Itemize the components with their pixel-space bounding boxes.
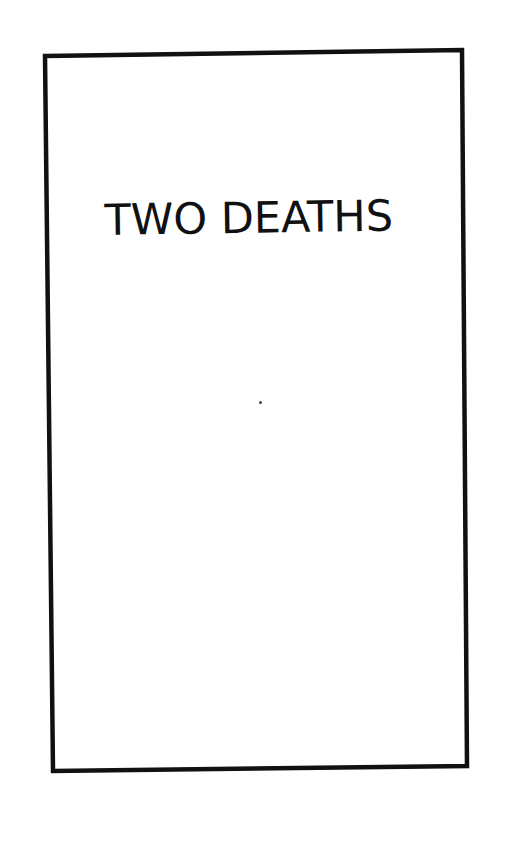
print-speck bbox=[259, 401, 262, 404]
border-rectangle bbox=[45, 50, 467, 771]
page-title: TWO DEATHS bbox=[104, 185, 405, 250]
page-border-frame bbox=[0, 0, 506, 845]
